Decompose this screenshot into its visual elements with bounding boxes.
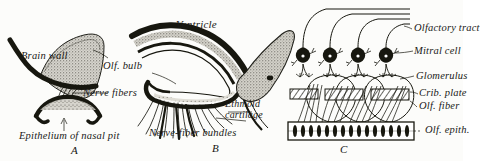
panel-c: Olfactory tract Mitral cell Glomerulus C… xyxy=(288,0,463,161)
mitral-nucleus-2 xyxy=(328,54,331,57)
receptor-cell xyxy=(381,125,385,137)
label-olfactory-fiber: Olf. fiber xyxy=(419,100,460,111)
nasal-pit-right-hook xyxy=(88,116,100,123)
ethmoid-dark-spot xyxy=(267,76,273,81)
receptor-cell xyxy=(317,125,321,137)
olf-bulb-leader xyxy=(152,73,176,84)
brain-wall-stipple-b xyxy=(135,34,240,78)
panel-letter-b: B xyxy=(212,142,219,154)
label-cribriform-plate: Crib. plate xyxy=(419,87,467,98)
label-nerve-fiber-bundles: Nerve-fiber bundles xyxy=(149,127,237,138)
label-mitral-cell: Mitral cell xyxy=(414,45,461,56)
receptor-cell xyxy=(333,125,337,137)
receptor-cell xyxy=(405,125,409,137)
receptor-cell xyxy=(373,125,377,137)
panel-letter-a: A xyxy=(71,144,78,156)
receptor-cell xyxy=(325,125,329,137)
receptor-cell xyxy=(357,125,361,137)
olfactory-tract-axons xyxy=(303,9,410,47)
crib-plate-segment-1 xyxy=(290,89,318,99)
label-glomerulus: Glomerulus xyxy=(416,70,468,81)
receptor-cell xyxy=(349,125,353,137)
receptor-cell xyxy=(397,125,401,137)
label-brain-wall: Brain wall xyxy=(21,50,68,61)
label-olfactory-epithelium: Olf. epith. xyxy=(425,124,470,135)
bulb-loop-upper xyxy=(148,82,170,92)
receptor-cell xyxy=(341,125,345,137)
dendritic-tufts xyxy=(296,73,396,77)
mitral-primary-dendrites xyxy=(300,64,392,77)
mitral-nucleus-4 xyxy=(384,54,387,57)
panel-b: Ventricle Olf. bulb Ethmoid cartilage Ne… xyxy=(130,0,300,161)
mitral-nucleus-1 xyxy=(301,54,304,57)
label-nerve-fibers: Nerve fibers xyxy=(83,87,137,98)
label-olfactory-bulb: Olf. bulb xyxy=(103,60,142,71)
label-epithelium-of-nasal-pit: Epithelium of nasal pit xyxy=(19,130,120,141)
receptor-cell xyxy=(309,125,313,137)
nasal-pit-left-hook xyxy=(36,116,48,122)
label-ethmoid-cartilage-line1: Ethmoid xyxy=(225,99,260,110)
receptor-cell xyxy=(365,125,369,137)
label-ventricle: Ventricle xyxy=(176,19,217,31)
label-olfactory-tract: Olfactory tract xyxy=(414,22,480,33)
olfactory-receptor-cells xyxy=(293,125,409,137)
olfactory-tract-leader xyxy=(404,26,412,29)
label-ethmoid-cartilage-line2: cartilage xyxy=(225,110,263,121)
mitral-cells xyxy=(296,47,393,63)
mitral-nucleus-3 xyxy=(356,54,359,57)
receptor-cell xyxy=(293,125,297,137)
panel-letter-c: C xyxy=(340,143,347,155)
receptor-cell xyxy=(389,125,393,137)
cribriform-plate xyxy=(290,89,409,100)
receptor-cell xyxy=(301,125,305,137)
